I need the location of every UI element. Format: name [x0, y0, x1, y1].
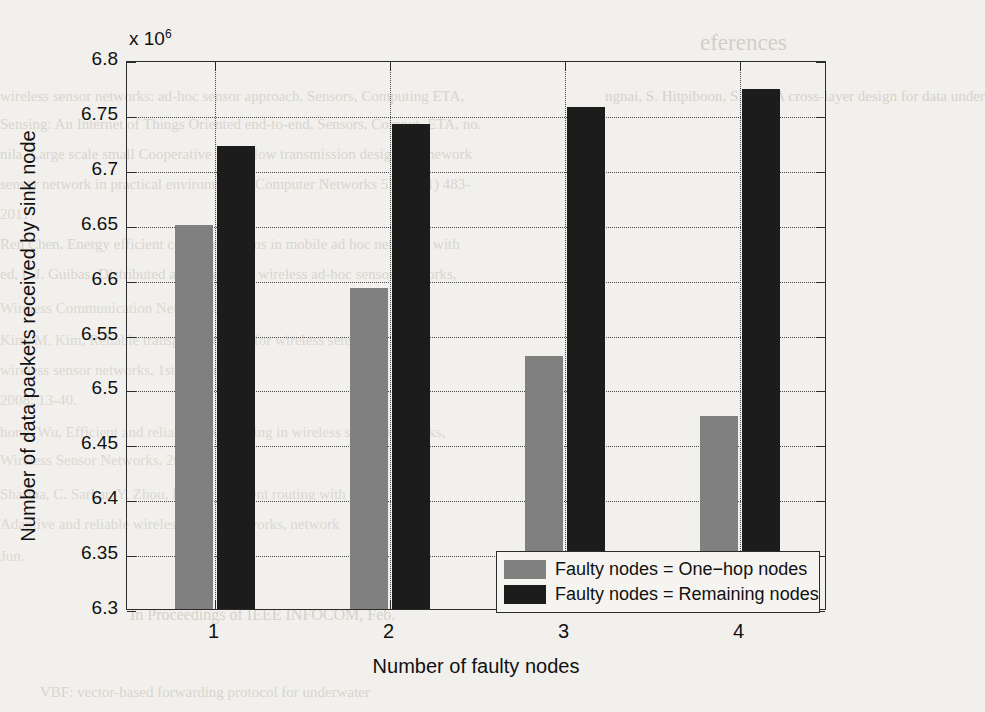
plot-area [126, 61, 826, 610]
x-tick-mark [215, 600, 216, 609]
legend-label-one-hop: Faulty nodes = One−hop nodes [555, 559, 807, 580]
y-tick-label: 6.8 [92, 48, 118, 70]
y-tick-label: 6.7 [92, 158, 118, 180]
legend-item[interactable]: Faulty nodes = Remaining nodes [504, 582, 812, 607]
y-tick-mark [127, 446, 136, 447]
exponent-power: 6 [165, 27, 172, 41]
vertical-gridline [215, 62, 216, 609]
legend-item[interactable]: Faulty nodes = One−hop nodes [504, 557, 812, 582]
bar-one-hop-2 [350, 288, 388, 609]
x-tick-mark [390, 62, 391, 71]
y-tick-mark [816, 117, 825, 118]
legend-swatch-remaining-icon [504, 585, 546, 604]
y-tick-mark [127, 62, 136, 63]
y-tick-label: 6.5 [92, 377, 118, 399]
chart-legend: Faulty nodes = One−hop nodes Faulty node… [496, 551, 820, 613]
x-tick-mark [215, 62, 216, 71]
y-tick-mark [816, 446, 825, 447]
bar-remaining-1 [217, 146, 255, 609]
y-tick-mark [127, 227, 136, 228]
y-tick-mark [127, 282, 136, 283]
y-tick-mark [816, 282, 825, 283]
y-tick-mark [127, 337, 136, 338]
x-tick-label: 2 [383, 620, 394, 643]
bar-one-hop-1 [175, 225, 213, 609]
y-tick-mark [816, 62, 825, 63]
vertical-gridline [565, 62, 566, 609]
y-tick-mark [816, 172, 825, 173]
bar-remaining-3 [567, 107, 605, 609]
exponent-mantissa: x 10 [129, 28, 165, 49]
x-tick-mark [565, 62, 566, 71]
x-tick-label: 3 [558, 620, 569, 643]
y-tick-mark [127, 556, 136, 557]
x-tick-label: 1 [208, 620, 219, 643]
y-tick-mark [816, 337, 825, 338]
vertical-gridline [390, 62, 391, 609]
y-tick-mark [127, 501, 136, 502]
y-axis-title: Number of data packets received by sink … [17, 130, 40, 541]
y-tick-mark [127, 391, 136, 392]
y-tick-mark [816, 227, 825, 228]
x-tick-mark [390, 600, 391, 609]
y-tick-label: 6.3 [92, 597, 118, 619]
y-axis-exponent-label: x 106 [129, 27, 172, 50]
y-tick-label: 6.55 [81, 323, 118, 345]
y-tick-label: 6.75 [81, 103, 118, 125]
bar-remaining-4 [742, 89, 780, 609]
vertical-gridline [740, 62, 741, 609]
y-tick-label: 6.4 [92, 487, 118, 509]
y-tick-mark [127, 172, 136, 173]
y-tick-label: 6.6 [92, 268, 118, 290]
y-tick-label: 6.45 [81, 432, 118, 454]
x-axis-title: Number of faulty nodes [126, 655, 826, 678]
legend-swatch-one-hop-icon [504, 560, 546, 579]
x-tick-mark [740, 62, 741, 71]
y-tick-label: 6.35 [81, 542, 118, 564]
y-tick-mark [127, 611, 136, 612]
y-tick-label: 6.65 [81, 213, 118, 235]
legend-label-remaining: Faulty nodes = Remaining nodes [555, 584, 819, 605]
y-tick-mark [127, 117, 136, 118]
bar-remaining-2 [392, 124, 430, 609]
x-tick-label: 4 [733, 620, 744, 643]
y-tick-mark [816, 501, 825, 502]
y-tick-mark [816, 391, 825, 392]
gridline [127, 117, 825, 118]
